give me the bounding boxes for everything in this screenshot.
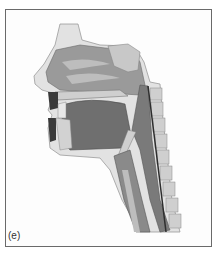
panel-label: (e)	[8, 230, 20, 241]
anatomy-illustration	[0, 0, 215, 255]
teeth	[58, 102, 66, 118]
tongue	[62, 100, 130, 150]
